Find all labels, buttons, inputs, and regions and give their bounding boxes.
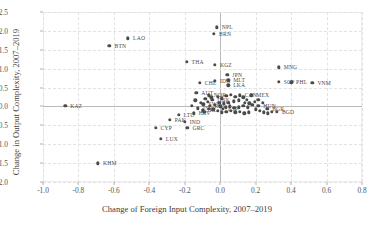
data-point [242, 112, 245, 115]
gridline-vertical [43, 12, 44, 182]
data-point-label: KAZ [70, 103, 82, 109]
x-tick-label: -0.6 [108, 186, 120, 195]
data-point-label: KHM [103, 160, 117, 166]
data-point [234, 111, 237, 114]
y-tick-label: 0.0 [0, 102, 8, 111]
x-tick-mark [43, 182, 44, 185]
x-tick-mark [362, 182, 363, 185]
data-point [195, 91, 198, 94]
x-tick-mark [255, 182, 256, 185]
x-tick-mark [326, 182, 327, 185]
gridline-vertical [78, 12, 79, 182]
data-point [232, 99, 235, 102]
x-tick-mark [113, 182, 114, 185]
data-point [257, 98, 260, 101]
y-tick-label: -1.5 [0, 159, 8, 168]
data-point [238, 110, 241, 113]
data-point-label: LAO [133, 35, 145, 41]
data-point [212, 32, 215, 35]
data-point [198, 81, 201, 84]
data-point [311, 81, 314, 84]
data-point [226, 84, 229, 87]
data-point [246, 105, 249, 108]
gridline-vertical [114, 12, 115, 182]
x-axis-label: Change of Foreign Input Complexity, 2007… [0, 204, 374, 214]
data-point-label: CYP [161, 125, 172, 131]
data-point [270, 110, 273, 113]
data-point-label: PHL [296, 79, 307, 85]
x-tick-label: -0.4 [143, 186, 155, 195]
gridline-horizontal [43, 69, 362, 70]
data-point-label: THA [192, 59, 204, 65]
data-point [229, 93, 232, 96]
data-point [229, 109, 232, 112]
data-point-label: IND [190, 119, 201, 125]
data-point [213, 63, 216, 66]
y-tick-mark [40, 12, 43, 13]
x-tick-label: 0.2 [251, 186, 260, 195]
x-tick-mark [149, 182, 150, 185]
data-point-label: BGD [282, 109, 294, 115]
y-tick-label: 2.0 [0, 26, 8, 35]
gridline-horizontal [43, 50, 362, 51]
data-point [185, 60, 188, 63]
x-tick-mark [78, 182, 79, 185]
chart-page: KAZBTNLAOKHMCYPLUXPAKGRCINDLTUHRVTHACHEA… [0, 0, 374, 249]
data-point [192, 112, 195, 115]
data-point-label: LKA [233, 82, 245, 88]
y-tick-label: 1.0 [0, 64, 8, 73]
data-point [108, 44, 111, 47]
data-point [159, 137, 162, 140]
y-tick-mark [40, 106, 43, 107]
data-point [96, 161, 99, 164]
gridline-vertical [149, 12, 150, 182]
x-tick-mark [220, 182, 221, 185]
y-tick-mark [40, 68, 43, 69]
gridline-horizontal [43, 88, 362, 89]
data-point [215, 25, 218, 28]
data-point [254, 108, 257, 111]
gridline-vertical [291, 12, 292, 182]
data-point [265, 107, 268, 110]
gridline-vertical [185, 12, 186, 182]
gridline-horizontal [43, 163, 362, 164]
data-point [234, 95, 237, 98]
y-tick-mark [40, 30, 43, 31]
y-tick-label: -0.5 [0, 121, 8, 130]
data-point-label: KGZ [220, 62, 232, 68]
x-tick-label: -1.0 [37, 186, 49, 195]
data-point-label: LUX [166, 136, 178, 142]
gridline-horizontal [43, 12, 362, 13]
scatter-plot-area: KAZBTNLAOKHMCYPLUXPAKGRCINDLTUHRVTHACHEA… [43, 12, 362, 182]
x-tick-label: 0.0 [216, 186, 225, 195]
data-point [247, 111, 250, 114]
x-tick-mark [291, 182, 292, 185]
gridline-vertical [327, 12, 328, 182]
y-tick-label: -2.0 [0, 178, 8, 187]
data-point [186, 126, 189, 129]
data-point [194, 99, 197, 102]
gridline-horizontal [43, 182, 362, 183]
data-point [237, 105, 240, 108]
data-point [225, 110, 228, 113]
data-point [275, 110, 278, 113]
data-point [243, 101, 246, 104]
data-point [220, 111, 223, 114]
x-tick-label: 0.6 [322, 186, 331, 195]
data-point [126, 37, 129, 40]
data-point-label: GRC [192, 125, 204, 131]
data-point-label: BTN [114, 43, 126, 49]
data-point [237, 99, 240, 102]
data-point-label: MNG [284, 64, 298, 70]
y-tick-mark [40, 125, 43, 126]
y-tick-mark [40, 49, 43, 50]
data-point [154, 126, 157, 129]
data-point [262, 111, 265, 114]
gridline-horizontal [43, 31, 362, 32]
y-tick-label: -1.0 [0, 140, 8, 149]
data-point [183, 120, 186, 123]
data-point [226, 73, 229, 76]
x-tick-label: 0.4 [286, 186, 295, 195]
data-point-label: VNM [317, 80, 331, 86]
y-axis-label: Change in Output Complexity, 2007–2019 [11, 12, 21, 192]
